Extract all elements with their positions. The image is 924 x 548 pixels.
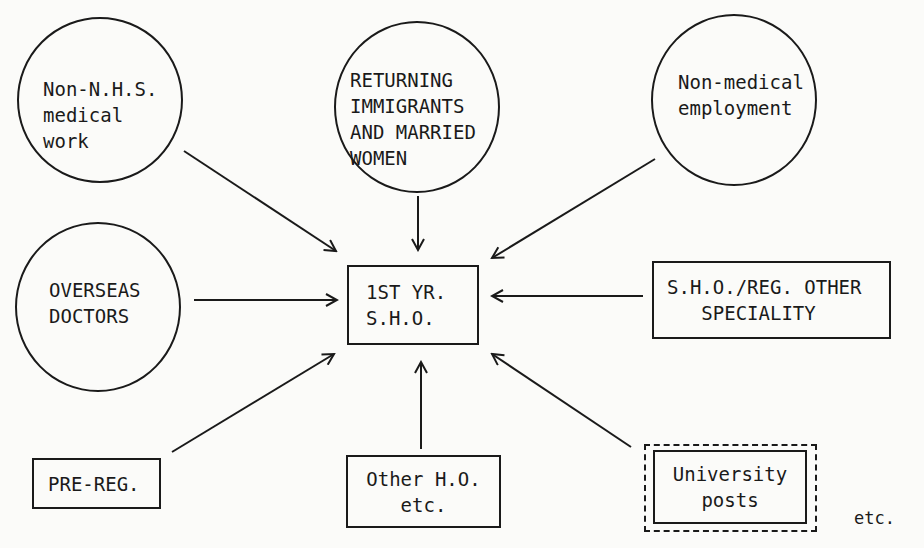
arrow-pre-reg-to-center	[172, 354, 334, 452]
center-label-line: S.H.O.	[366, 305, 477, 331]
node-label-line: work	[43, 128, 181, 154]
center-label-line: 1ST YR.	[366, 279, 477, 305]
arrow-non-medical-to-center	[492, 159, 655, 258]
node-label-line: OVERSEAS	[49, 277, 179, 303]
node-label-line: WOMEN	[350, 145, 498, 171]
node-label-line: S.H.O./REG. OTHER	[667, 274, 889, 300]
node-label-line: Non-medical	[678, 69, 815, 95]
footnote-etc: etc.	[854, 508, 895, 528]
node-label-line: DOCTORS	[49, 303, 179, 329]
node-returning-immigrants: RETURNING IMMIGRANTS AND MARRIED WOMEN	[334, 21, 500, 193]
node-non-nhs-medical-work: Non-N.H.S. medical work	[17, 17, 183, 183]
node-label-line: IMMIGRANTS	[350, 93, 498, 119]
node-1st-yr-sho: 1ST YR. S.H.O.	[347, 265, 479, 345]
node-label-line: Non-N.H.S.	[43, 76, 181, 102]
node-label-line: employment	[678, 95, 815, 121]
node-sho-reg-other-speciality: S.H.O./REG. OTHER SPECIALITY	[652, 261, 891, 339]
node-label-line: Other H.O.	[366, 466, 480, 492]
node-other-ho: Other H.O. etc.	[346, 455, 501, 528]
node-label-line: University	[673, 461, 787, 487]
node-label-line: medical	[43, 102, 181, 128]
node-label-line: SPECIALITY	[667, 300, 889, 326]
node-non-medical-employment: Non-medical employment	[651, 14, 817, 186]
node-pre-reg: PRE-REG.	[32, 458, 161, 509]
node-overseas-doctors: OVERSEAS DOCTORS	[15, 222, 181, 392]
arrow-non-nhs-to-center	[184, 151, 336, 251]
node-label-line: etc.	[401, 492, 447, 518]
node-university-posts: University posts	[653, 450, 807, 524]
node-label-line: AND MARRIED	[350, 119, 498, 145]
node-label-line: PRE-REG.	[48, 471, 159, 497]
node-label-line: RETURNING	[350, 67, 498, 93]
arrow-university-to-center	[492, 354, 631, 447]
node-label-line: posts	[701, 487, 758, 513]
